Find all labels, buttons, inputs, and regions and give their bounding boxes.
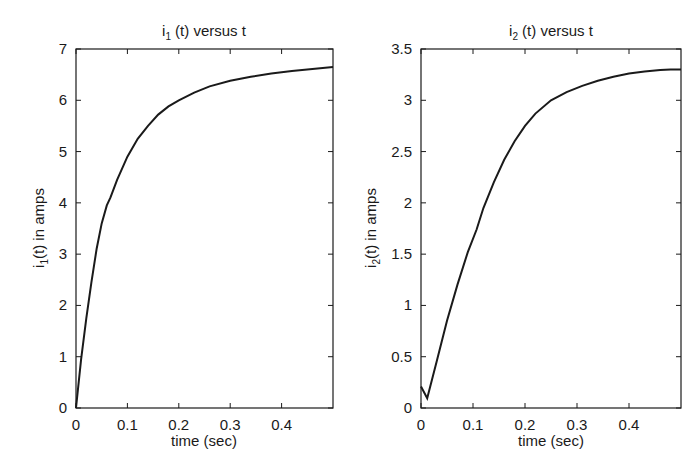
figure: i1 (t) versus t 00.10.20.30.4 01234567 t… — [0, 0, 700, 476]
x-tick-label: 0.1 — [117, 416, 138, 433]
y-axis-label: i1(t) in amps — [30, 188, 50, 268]
x-axis-label: time (sec) — [518, 432, 584, 449]
x-tick-label: 0.4 — [619, 416, 640, 433]
curve-i1 — [76, 67, 333, 408]
plot-frame — [76, 49, 333, 408]
y-tick-label: 7 — [59, 40, 67, 57]
plot-title-i2: i2 (t) versus t — [509, 22, 594, 42]
y-tick-label: 0 — [59, 399, 67, 416]
y-tick-label: 1.5 — [391, 245, 412, 262]
y-tick-label: 3 — [59, 245, 67, 262]
x-axis-ticks: 00.10.20.30.4 — [72, 49, 292, 433]
plot-title-i1: i1 (t) versus t — [162, 22, 247, 42]
y-tick-label: 3.5 — [391, 40, 412, 57]
curve-i2 — [421, 70, 681, 399]
x-axis-label: time (sec) — [171, 432, 237, 449]
x-tick-label: 0.2 — [515, 416, 536, 433]
x-tick-label: 0.4 — [271, 416, 292, 433]
y-tick-label: 2 — [404, 194, 412, 211]
y-axis-ticks: 00.511.522.533.5 — [391, 40, 681, 416]
y-tick-label: 1 — [59, 348, 67, 365]
y-tick-label: 2.5 — [391, 143, 412, 160]
x-tick-label: 0.3 — [220, 416, 241, 433]
x-tick-label: 0.1 — [463, 416, 484, 433]
x-tick-label: 0.2 — [168, 416, 189, 433]
y-tick-label: 4 — [59, 194, 67, 211]
y-tick-label: 0.5 — [391, 348, 412, 365]
plot-i1: i1 (t) versus t 00.10.20.30.4 01234567 t… — [30, 22, 333, 449]
y-tick-label: 5 — [59, 143, 67, 160]
x-tick-label: 0 — [417, 416, 425, 433]
y-tick-label: 0 — [404, 399, 412, 416]
x-tick-label: 0 — [72, 416, 80, 433]
plot-frame — [421, 49, 681, 408]
y-tick-label: 3 — [404, 91, 412, 108]
y-tick-label: 6 — [59, 91, 67, 108]
x-axis-ticks: 00.10.20.30.4 — [417, 49, 640, 433]
y-axis-label: i2(t) in amps — [362, 188, 382, 268]
plot-i2: i2 (t) versus t 00.10.20.30.4 00.511.522… — [362, 22, 681, 449]
y-tick-label: 2 — [59, 296, 67, 313]
x-tick-label: 0.3 — [567, 416, 588, 433]
y-tick-label: 1 — [404, 296, 412, 313]
